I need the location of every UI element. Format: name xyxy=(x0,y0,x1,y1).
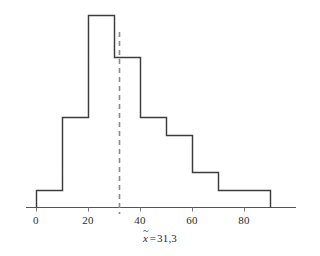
median-symbol: ~x xyxy=(143,232,149,244)
x-axis-ticks xyxy=(37,208,245,212)
median-value: 31,3 xyxy=(157,232,177,244)
equals-sign: = xyxy=(149,232,157,244)
x-tick-label-80: 80 xyxy=(229,214,259,226)
x-tick-label-60: 60 xyxy=(177,214,207,226)
tilde-accent: ~ xyxy=(143,226,149,236)
x-tick-label-20: 20 xyxy=(73,214,103,226)
histogram-figure: 0 20 40 60 80 ~x=31,3 xyxy=(0,0,320,256)
histogram-outline xyxy=(37,16,271,208)
x-tick-label-0: 0 xyxy=(21,214,51,226)
median-caption: ~x=31,3 xyxy=(0,232,320,244)
x-tick-label-40: 40 xyxy=(125,214,155,226)
